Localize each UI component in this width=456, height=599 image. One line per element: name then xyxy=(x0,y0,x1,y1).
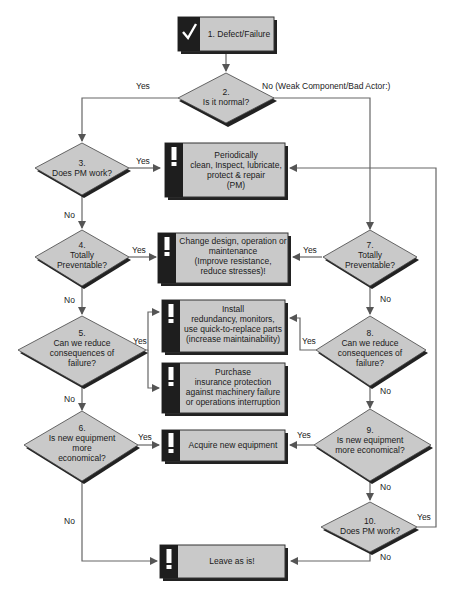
svg-text:more economical?: more economical? xyxy=(335,445,405,455)
svg-text:reduce stresses)!: reduce stresses)! xyxy=(200,266,265,276)
svg-text:Yes: Yes xyxy=(417,512,431,522)
svg-text:6.: 6. xyxy=(78,423,85,433)
svg-text:4.: 4. xyxy=(78,240,85,250)
svg-text:clean, Inspect, lubricate,: clean, Inspect, lubricate, xyxy=(190,160,282,170)
svg-text:Yes: Yes xyxy=(136,81,150,91)
action-change-design: Change design, operation or maintenance … xyxy=(158,233,291,286)
svg-text:Yes: Yes xyxy=(297,430,311,440)
decision-7: 7. Totally Preventable? xyxy=(323,230,419,289)
exclamation-icon xyxy=(172,147,177,166)
svg-text:Purchase: Purchase xyxy=(215,367,251,377)
svg-text:redundancy, monitors,: redundancy, monitors, xyxy=(191,314,274,324)
svg-text:3.: 3. xyxy=(78,158,85,168)
action-leave-as-is: Leave as is! xyxy=(160,545,288,581)
svg-text:or operations interruption: or operations interruption xyxy=(186,397,281,407)
svg-text:maintenance: maintenance xyxy=(209,246,258,256)
svg-text:5.: 5. xyxy=(78,328,85,338)
action-acquire-new-equipment: Acquire new equipment xyxy=(162,430,288,464)
decision-10: 10. Does PM work? xyxy=(321,502,419,555)
svg-text:(PM): (PM) xyxy=(227,180,246,190)
svg-text:use quick-to-replace parts: use quick-to-replace parts xyxy=(184,324,282,334)
decision-4: 4. Totally Preventable? xyxy=(35,230,131,289)
svg-text:Preventable?: Preventable? xyxy=(345,260,395,270)
svg-text:Totally: Totally xyxy=(70,250,95,260)
svg-text:Totally: Totally xyxy=(358,250,383,260)
svg-text:Does PM work?: Does PM work? xyxy=(52,168,112,178)
action-install: Install redundancy, monitors, use quick-… xyxy=(162,300,288,355)
svg-text:Is new equipment: Is new equipment xyxy=(49,433,116,443)
svg-text:against machinery failure: against machinery failure xyxy=(186,387,281,397)
decision-3: 3. Does PM work? xyxy=(35,143,131,198)
decision-9: 9. Is new equipment more economical? xyxy=(314,409,433,484)
svg-text:No: No xyxy=(64,210,75,220)
svg-text:No: No xyxy=(64,394,75,404)
exclamation-icon xyxy=(167,549,172,569)
svg-text:Can we reduce: Can we reduce xyxy=(53,338,110,348)
svg-text:No (Weak Component/Bad Actor:): No (Weak Component/Bad Actor:) xyxy=(262,81,391,91)
svg-text:Install: Install xyxy=(222,304,244,314)
svg-text:Change design, operation or: Change design, operation or xyxy=(179,236,286,246)
svg-text:Yes: Yes xyxy=(133,336,147,346)
action-purchase-insurance: Purchase insurance protection against ma… xyxy=(162,363,288,416)
svg-text:consequences of: consequences of xyxy=(338,348,403,358)
svg-text:insurance protection: insurance protection xyxy=(195,377,272,387)
svg-text:No: No xyxy=(380,386,391,396)
svg-text:Leave as is!: Leave as is! xyxy=(209,556,254,566)
exclamation-icon xyxy=(169,367,174,386)
svg-text:more: more xyxy=(72,443,92,453)
svg-text:2.: 2. xyxy=(222,87,229,97)
exclamation-icon xyxy=(169,433,174,453)
svg-text:economical?: economical? xyxy=(58,453,106,463)
svg-text:Is new equipment: Is new equipment xyxy=(337,435,404,445)
svg-text:10.: 10. xyxy=(364,516,376,526)
svg-text:7.: 7. xyxy=(366,240,373,250)
svg-text:No: No xyxy=(380,482,391,492)
svg-text:Can we reduce: Can we reduce xyxy=(341,338,398,348)
svg-text:Periodically: Periodically xyxy=(214,150,258,160)
svg-text:No: No xyxy=(380,552,391,562)
svg-text:Does PM work?: Does PM work? xyxy=(340,526,400,536)
decision-5: 5. Can we reduce consequences of failure… xyxy=(18,316,148,389)
svg-text:No: No xyxy=(64,516,75,526)
svg-text:No: No xyxy=(64,295,75,305)
svg-text:Yes: Yes xyxy=(303,245,317,255)
svg-text:No: No xyxy=(380,294,391,304)
svg-text:Is it normal?: Is it normal? xyxy=(203,97,250,107)
action-pm: Periodically clean, Inspect, lubricate, … xyxy=(165,143,288,200)
svg-text:(increase maintainability): (increase maintainability) xyxy=(186,334,280,344)
svg-text:Preventable?: Preventable? xyxy=(57,260,107,270)
svg-text:Acquire new equipment: Acquire new equipment xyxy=(189,440,278,450)
svg-text:protect & repair: protect & repair xyxy=(207,170,265,180)
svg-text:Yes: Yes xyxy=(138,432,152,442)
svg-text:9.: 9. xyxy=(366,425,373,435)
decision-8: 8. Can we reduce consequences of failure… xyxy=(316,316,428,389)
flowchart: 1. Defect/Failure 2. Is it normal? 3. Do… xyxy=(0,0,456,599)
svg-text:failure?: failure? xyxy=(356,358,384,368)
svg-text:failure?: failure? xyxy=(68,358,96,368)
svg-text:Yes: Yes xyxy=(136,156,150,166)
start-label: 1. Defect/Failure xyxy=(208,29,271,39)
svg-text:(Improve resistance,: (Improve resistance, xyxy=(195,256,272,266)
svg-text:consequences of: consequences of xyxy=(50,348,115,358)
svg-text:Yes: Yes xyxy=(132,245,146,255)
svg-text:Yes: Yes xyxy=(302,336,316,346)
svg-text:8.: 8. xyxy=(366,328,373,338)
decision-6: 6. Is new equipment more economical? xyxy=(24,411,140,484)
start-node-defect-failure: 1. Defect/Failure xyxy=(178,17,277,54)
exclamation-icon xyxy=(165,237,170,256)
exclamation-icon xyxy=(169,304,174,323)
